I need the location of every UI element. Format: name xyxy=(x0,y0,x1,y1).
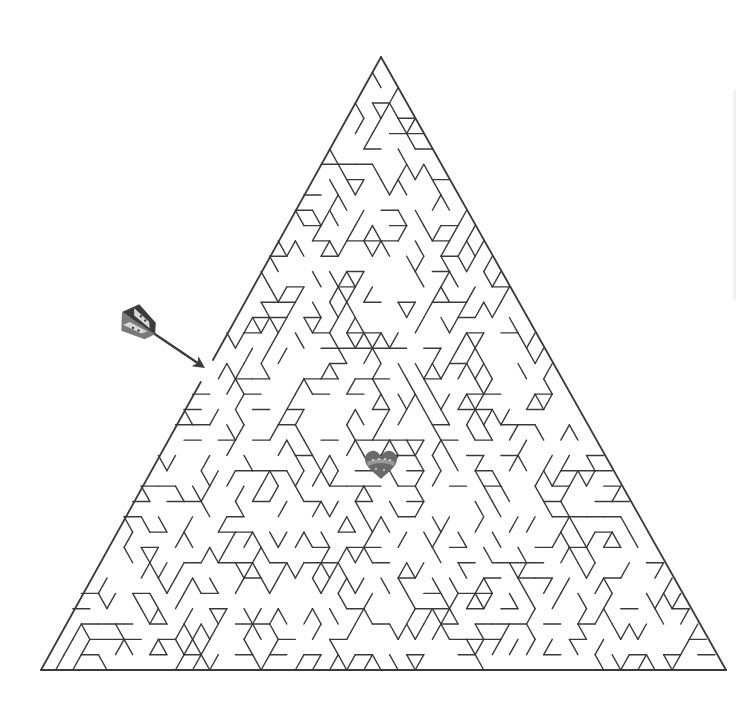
maze-canvas xyxy=(0,0,736,705)
maze-outline xyxy=(41,57,726,670)
triangle-maze[interactable] xyxy=(0,0,736,705)
start-arrow-icon xyxy=(113,299,214,382)
maze-walls xyxy=(56,72,715,670)
